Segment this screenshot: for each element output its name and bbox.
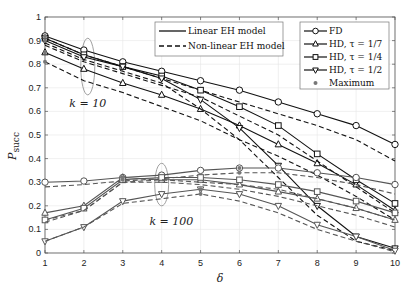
svg-text:Non-linear EH model: Non-linear EH model bbox=[188, 41, 285, 51]
svg-text:8: 8 bbox=[315, 258, 320, 268]
svg-text:FD: FD bbox=[329, 26, 342, 36]
svg-text:0.9: 0.9 bbox=[28, 36, 41, 46]
svg-text:Psucc: Psucc bbox=[6, 132, 21, 161]
svg-text:10: 10 bbox=[390, 258, 400, 268]
series-line bbox=[42, 165, 398, 188]
y-axis-label: Psucc bbox=[6, 132, 21, 161]
svg-text:0.6: 0.6 bbox=[28, 106, 41, 116]
x-axis-label: δ bbox=[217, 272, 224, 285]
svg-text:HD, τ = 1/4: HD, τ = 1/4 bbox=[329, 52, 382, 62]
svg-text:2: 2 bbox=[81, 258, 86, 268]
svg-text:0.8: 0.8 bbox=[28, 59, 41, 69]
svg-text:Maximum: Maximum bbox=[329, 78, 375, 88]
annotation-k100: k = 100 bbox=[149, 215, 193, 228]
svg-text:0.7: 0.7 bbox=[28, 83, 41, 93]
svg-text:7: 7 bbox=[276, 258, 281, 268]
svg-text:0.2: 0.2 bbox=[28, 201, 41, 211]
svg-text:0.1: 0.1 bbox=[28, 224, 41, 234]
svg-text:5: 5 bbox=[198, 258, 203, 268]
svg-text:0.4: 0.4 bbox=[28, 154, 41, 164]
annotation-k10: k = 10 bbox=[69, 97, 106, 110]
svg-text:HD, τ = 1/7: HD, τ = 1/7 bbox=[329, 39, 382, 49]
series-line bbox=[45, 180, 395, 223]
svg-text:4: 4 bbox=[159, 258, 164, 268]
line-chart: 12345678910 00.10.20.30.40.50.60.70.80.9… bbox=[0, 0, 408, 298]
svg-text:1: 1 bbox=[36, 12, 41, 22]
series-line bbox=[45, 194, 395, 252]
svg-text:0: 0 bbox=[36, 248, 41, 258]
legend-model: Linear EH model Non-linear EH model bbox=[155, 22, 285, 56]
maximum-points bbox=[43, 34, 241, 196]
svg-text:1: 1 bbox=[42, 258, 47, 268]
svg-text:3: 3 bbox=[120, 258, 125, 268]
svg-text:9: 9 bbox=[354, 258, 359, 268]
svg-text:6: 6 bbox=[237, 258, 242, 268]
svg-text:0.3: 0.3 bbox=[28, 177, 41, 187]
svg-text:HD, τ = 1/2: HD, τ = 1/2 bbox=[329, 65, 382, 75]
legend-scheme: FD HD, τ = 1/7 HD, τ = 1/4 HD, τ = 1/2 M… bbox=[300, 22, 389, 89]
svg-text:0.5: 0.5 bbox=[28, 130, 41, 140]
svg-text:Linear EH model: Linear EH model bbox=[188, 26, 266, 36]
